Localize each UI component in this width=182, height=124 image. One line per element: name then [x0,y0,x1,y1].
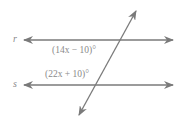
label-s: s [13,78,17,89]
angle-label-top: (14x − 10)° [52,45,96,56]
angle-label-bottom: (22x + 10)° [45,69,89,80]
parallel-lines-diagram: r s (14x − 10)° (22x + 10)° [0,0,182,124]
transversal-line [79,11,136,115]
label-r: r [13,33,17,44]
